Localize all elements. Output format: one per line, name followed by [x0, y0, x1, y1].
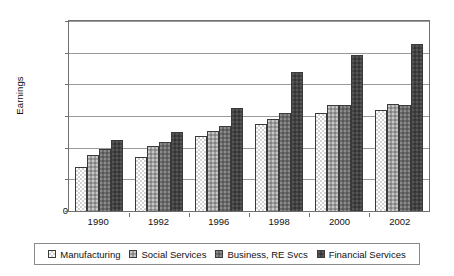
bar — [171, 132, 183, 211]
x-axis-label-1990: 1990 — [68, 216, 128, 230]
bar — [159, 142, 171, 211]
bar — [339, 105, 351, 211]
legend-item-3[interactable]: Financial Services — [317, 249, 406, 260]
x-axis-label-2000: 2000 — [309, 216, 369, 230]
bar-group — [69, 21, 129, 211]
y-axis-title: Earnings — [14, 56, 25, 136]
x-axis-label-1998: 1998 — [249, 216, 309, 230]
bar — [327, 105, 339, 211]
bar — [75, 167, 87, 211]
bar-group — [129, 21, 189, 211]
bar — [291, 72, 303, 211]
x-axis-labels: 199019921996199820002002 — [68, 216, 430, 230]
plot-area: 01,0002,0003,0004,0005,0006,000 — [68, 20, 430, 212]
bar — [387, 104, 399, 211]
bar — [195, 136, 207, 211]
bar — [219, 126, 231, 212]
bar — [87, 155, 99, 211]
bar-group — [249, 21, 309, 211]
bar — [267, 119, 279, 211]
bar — [111, 140, 123, 211]
legend-item-2[interactable]: Business, RE Svcs — [215, 249, 307, 260]
x-axis-label-1996: 1996 — [189, 216, 249, 230]
legend-swatch-icon — [48, 250, 56, 258]
y-axis-tick-mark — [65, 211, 69, 212]
chart-legend: ManufacturingSocial ServicesBusiness, RE… — [34, 243, 420, 265]
bar — [147, 146, 159, 211]
bar — [135, 157, 147, 211]
legend-swatch-icon — [317, 250, 325, 258]
bar — [99, 149, 111, 211]
bar — [375, 110, 387, 211]
y-axis-tick-label-zero: 0 — [26, 205, 68, 216]
legend-label: Social Services — [141, 249, 206, 260]
x-axis-label-1992: 1992 — [128, 216, 188, 230]
bar-groups — [69, 21, 429, 211]
legend-label: Financial Services — [329, 249, 406, 260]
legend-swatch-icon — [215, 250, 223, 258]
bar — [231, 108, 243, 211]
bar — [255, 124, 267, 211]
x-axis-label-2002: 2002 — [370, 216, 430, 230]
legend-label: Business, RE Svcs — [227, 249, 307, 260]
chart-container: Earnings 0 01,0002,0003,0004,0005,0006,0… — [0, 0, 454, 276]
bar — [207, 131, 219, 211]
legend-item-0[interactable]: Manufacturing — [48, 249, 120, 260]
bar — [351, 55, 363, 211]
legend-label: Manufacturing — [60, 249, 120, 260]
bar — [279, 113, 291, 211]
bar-group — [189, 21, 249, 211]
bar — [411, 44, 423, 211]
bar-group — [309, 21, 369, 211]
bar-group — [369, 21, 429, 211]
legend-swatch-icon — [129, 250, 137, 258]
bar — [315, 113, 327, 211]
legend-item-1[interactable]: Social Services — [129, 249, 206, 260]
bar — [399, 105, 411, 211]
